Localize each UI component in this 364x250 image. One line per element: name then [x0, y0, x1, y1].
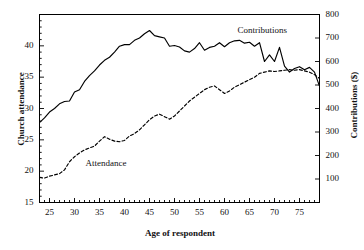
series-annotation-attendance: Attendance [86, 158, 127, 168]
y-tick-label-right: 800 [326, 9, 360, 19]
x-axis-title: Age of respondent [110, 228, 250, 238]
y-tick-label-right: 100 [326, 173, 360, 183]
y-axis-left-title: Church attendance [16, 49, 26, 169]
series-annotation-contributions: Contributions [238, 25, 288, 35]
y-tick-label-left: 15 [0, 197, 34, 207]
x-tick-label: 75 [283, 207, 317, 217]
y-tick-label-right: 700 [326, 32, 360, 42]
y-axis-right-title: Contributions ($) [349, 45, 359, 165]
chart-figure: 2530354045505560657075152025303540100200… [0, 0, 364, 250]
